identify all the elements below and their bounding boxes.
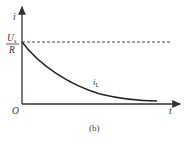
x-axis-label: t bbox=[169, 106, 172, 116]
level-numerator: Us bbox=[7, 33, 17, 44]
curve-label: iL bbox=[93, 77, 100, 88]
level-denominator: R bbox=[8, 45, 15, 55]
origin-label: O bbox=[12, 106, 19, 116]
y-axis-label: i bbox=[13, 11, 16, 22]
figure-caption: (b) bbox=[89, 123, 100, 133]
labels-layer: i Us R iL O t (b) bbox=[0, 0, 191, 144]
